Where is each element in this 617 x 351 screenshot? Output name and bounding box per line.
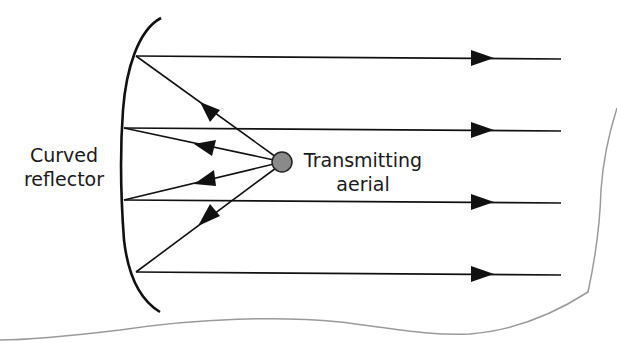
reflector-label-line2: reflector xyxy=(12,167,116,191)
arrow-right-icon xyxy=(471,122,494,138)
transmitting-aerial-label: Transmitting aerial xyxy=(298,148,428,196)
ray-arrowheads-left xyxy=(194,102,220,226)
aerial-label-line2: aerial xyxy=(298,172,428,196)
transmitting-aerial xyxy=(272,152,292,172)
arrow-right-icon xyxy=(471,194,494,210)
aerial-label-line1: Transmitting xyxy=(298,148,428,172)
arrow-left-icon xyxy=(194,140,216,156)
ray-arrowheads-right xyxy=(471,50,494,282)
reflector-label-line1: Curved xyxy=(12,143,116,167)
arrow-left-icon xyxy=(198,204,220,226)
incident-rays xyxy=(124,56,276,272)
arrow-left-icon xyxy=(194,170,216,186)
curved-reflector-label: Curved reflector xyxy=(12,143,116,191)
arrow-left-icon xyxy=(200,102,220,122)
arrow-right-icon xyxy=(471,50,494,66)
arrow-right-icon xyxy=(471,266,494,282)
